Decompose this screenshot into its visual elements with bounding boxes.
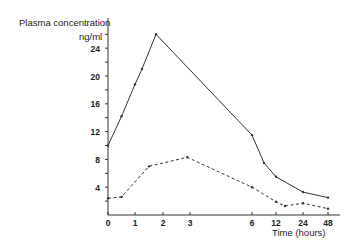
chart: Plasma concentration ng/ml Time (hours) … [0,0,355,246]
data-point [327,196,329,198]
x-tick-label: 6 [250,218,255,228]
y-tick-label: 24 [91,44,101,54]
data-point [302,202,304,204]
data-point [251,186,253,188]
data-point [134,83,136,85]
x-tick-label: 1 [133,218,138,228]
y-tick-label: 8 [95,155,100,165]
data-point [148,165,150,167]
data-point [107,144,109,146]
data-point [251,134,253,136]
data-point [263,162,265,164]
x-tick-label: 12 [271,218,281,228]
data-point [186,156,188,158]
series-solid [108,34,328,197]
data-point [275,176,277,178]
data-point [120,115,122,117]
x-tick-label: 48 [323,218,333,228]
x-tick-label: 0 [106,218,111,228]
y-tick-label: 4 [95,183,100,193]
y-tick-label: 16 [91,99,101,109]
data-point [107,197,109,199]
data-point [284,205,286,207]
series-lines [107,33,329,210]
data-point [141,68,143,70]
x-axis-label: Time (hours) [272,227,326,238]
x-ticks: 01236122448 [106,212,333,228]
y-axis-label-line2: ng/ml [79,31,102,42]
y-ticks: 4812162024 [91,34,108,201]
data-point [327,208,329,210]
y-axis-label-line1: Plasma concentration [19,17,110,28]
data-point [155,33,157,35]
y-tick-label: 20 [91,72,101,82]
data-point [275,201,277,203]
series-dashed [108,157,328,208]
y-tick-label: 12 [91,127,101,137]
data-point [302,191,304,193]
x-tick-label: 3 [188,218,193,228]
x-tick-label: 24 [298,218,308,228]
data-point [120,196,122,198]
x-tick-label: 2 [161,218,166,228]
